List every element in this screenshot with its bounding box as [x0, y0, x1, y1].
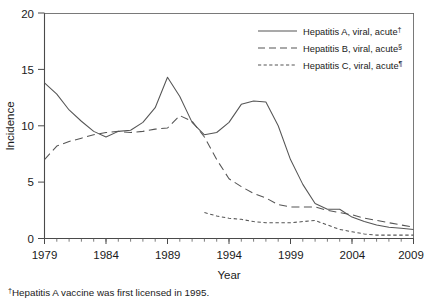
y-ticklabel-20: 20: [21, 8, 34, 20]
y-axis-ticklabels: 0 5 10 15 20: [21, 8, 34, 245]
x-axis-major-ticks: [45, 239, 414, 245]
x-ticklabel-1979: 1979: [32, 249, 58, 261]
x-ticklabel-2004: 2004: [340, 249, 366, 261]
series-line-hepatitis-c: [204, 213, 413, 236]
x-axis-title: Year: [217, 269, 240, 281]
x-ticklabel-1999: 1999: [278, 249, 304, 261]
series-line-hepatitis-a: [45, 77, 414, 229]
legend-label-hepatitis-c: Hepatitis C, viral, acute¶: [303, 59, 403, 71]
chart-legend: Hepatitis A, viral, acute† Hepatitis B, …: [258, 25, 403, 71]
x-ticklabel-2009: 2009: [398, 249, 424, 261]
y-axis-title: Incidence: [4, 101, 16, 150]
x-ticklabel-1984: 1984: [93, 249, 119, 261]
legend-label-hepatitis-a: Hepatitis A, viral, acute†: [303, 25, 402, 37]
data-series-group: [45, 77, 414, 235]
x-axis-ticklabels: 1979 1984 1989 1994 1999 2004 2009: [32, 249, 424, 261]
y-ticklabel-10: 10: [21, 120, 34, 132]
x-ticklabel-1994: 1994: [216, 249, 242, 261]
footnote-hepatitis-a-vaccine: †Hepatitis A vaccine was first licensed …: [8, 286, 209, 298]
x-ticklabel-1989: 1989: [155, 249, 181, 261]
chart-figure: 0 5 10 15 20 1979 1984 1989 1994 1999 20…: [0, 0, 427, 301]
chart-svg: 0 5 10 15 20 1979 1984 1989 1994 1999 20…: [0, 0, 427, 301]
y-axis-ticks: [38, 13, 45, 239]
legend-label-hepatitis-b: Hepatitis B, viral, acute§: [303, 42, 402, 54]
y-ticklabel-5: 5: [28, 176, 34, 188]
series-line-hepatitis-b: [45, 116, 414, 228]
y-ticklabel-15: 15: [21, 64, 34, 76]
y-ticklabel-0: 0: [28, 233, 34, 245]
